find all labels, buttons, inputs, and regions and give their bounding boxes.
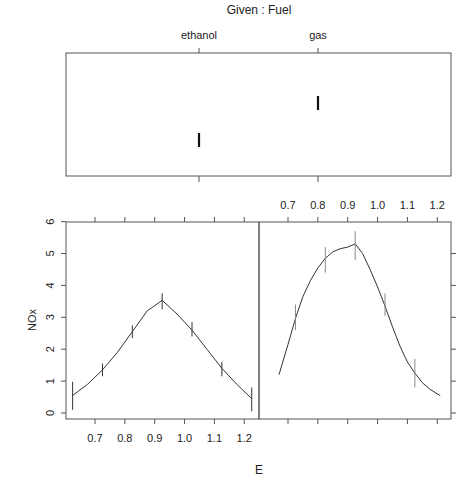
x-tick-label-top: 0.7 [280, 199, 295, 211]
panel-gas [259, 222, 451, 419]
given-level-label-ethanol: ethanol [181, 29, 217, 41]
x-tick-label-top: 1.2 [430, 199, 445, 211]
x-tick-label-top: 1.1 [400, 199, 415, 211]
y-tick-label: 5 [44, 250, 56, 256]
y-tick-label: 3 [44, 314, 56, 320]
x-tick-label-bottom: 0.8 [117, 432, 132, 444]
curve-gas [279, 244, 440, 396]
x-axis-label: E [255, 463, 263, 477]
given-panel: ethanol gas [66, 29, 451, 182]
x-axis-top: 0.70.80.91.01.11.2 [280, 199, 445, 424]
coplot-chart: Given : Fuel ethanol gas 01234560.70.80.… [0, 0, 476, 488]
x-axis-bottom: 0.70.80.91.01.11.2 [87, 217, 252, 444]
given-title: Given : Fuel [227, 3, 292, 17]
x-tick-label-top: 1.0 [370, 199, 385, 211]
given-level-label-gas: gas [309, 29, 327, 41]
x-tick-label-top: 0.8 [310, 199, 325, 211]
y-tick-label: 0 [44, 410, 56, 416]
x-tick-label-bottom: 1.1 [207, 432, 222, 444]
curve-ethanol [73, 300, 252, 398]
y-tick-label: 1 [44, 378, 56, 384]
y-tick-label: 4 [44, 282, 56, 288]
x-tick-label-bottom: 0.9 [147, 432, 162, 444]
main-panels: 01234560.70.80.91.01.11.20.70.80.91.01.1… [44, 199, 456, 444]
panel-frame-ethanol [66, 222, 259, 419]
panel-ethanol [66, 222, 259, 419]
y-axis-right [451, 254, 456, 414]
x-tick-label-bottom: 1.2 [237, 432, 252, 444]
x-tick-label-bottom: 0.7 [87, 432, 102, 444]
y-axis-left: 0123456 [44, 219, 66, 417]
y-tick-label: 2 [44, 346, 56, 352]
y-axis-label: NOx [26, 309, 38, 332]
y-tick-label: 6 [44, 219, 56, 225]
x-tick-label-top: 0.9 [340, 199, 355, 211]
x-tick-label-bottom: 1.0 [177, 432, 192, 444]
given-panel-frame [66, 53, 451, 176]
